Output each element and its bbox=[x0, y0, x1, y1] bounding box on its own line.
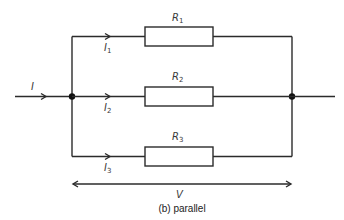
resistor-r2 bbox=[145, 87, 213, 106]
branch-1: R1 I1 bbox=[72, 12, 292, 55]
parallel-circuit-diagram: I R1 I1 R2 I2 R3 I3 V bbox=[0, 0, 344, 220]
resistor-r2-label: R2 bbox=[172, 71, 183, 84]
diagram-caption: (b) parallel bbox=[158, 203, 205, 214]
branch-1-current-label: I1 bbox=[104, 42, 111, 55]
input-wire: I bbox=[15, 81, 72, 100]
resistor-r1-label: R1 bbox=[172, 12, 183, 25]
branch-2: R2 I2 bbox=[72, 71, 292, 115]
resistor-r3-label: R3 bbox=[172, 131, 183, 144]
resistor-r3 bbox=[145, 147, 213, 166]
voltage-label: V bbox=[176, 189, 184, 200]
branch-3-current-label: I3 bbox=[104, 162, 111, 175]
input-current-label: I bbox=[31, 81, 34, 92]
branch-3: R3 I3 bbox=[72, 131, 292, 175]
voltage-indicator: V bbox=[73, 181, 291, 200]
resistor-r1 bbox=[145, 27, 213, 46]
branch-2-current-label: I2 bbox=[104, 102, 111, 115]
